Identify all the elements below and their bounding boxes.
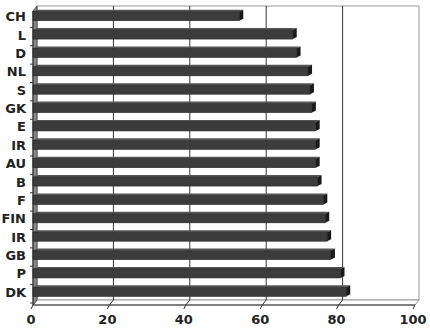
x-tick-label: 20 [98,312,116,327]
bar [33,46,301,57]
y-tick-label: IR [11,230,26,245]
bar-chart: CHLDNLSGKEIRAUBFFINIRGBPDK 020406080100 [0,0,430,330]
y-axis-labels: CHLDNLSGKEIRAUBFFINIRGBPDK [1,9,27,300]
y-tick-label: B [16,175,26,190]
bar [33,157,320,168]
x-tick-label: 40 [175,312,193,327]
y-tick-label: AU [6,156,26,171]
bar [33,193,327,204]
x-tick-label: 80 [328,312,346,327]
bar [33,65,312,76]
bar [33,10,243,21]
bar [33,175,322,186]
x-tick-label: 60 [251,312,269,327]
y-tick-label: D [15,46,26,61]
bar [33,28,297,39]
y-tick-label: DK [5,285,27,300]
bar [33,212,329,223]
bar [33,138,320,149]
y-tick-label: L [18,28,26,43]
bar [33,120,320,131]
bar [33,102,316,113]
floor [33,300,419,305]
y-tick-label: E [17,119,26,134]
y-tick-label: GK [5,101,27,116]
y-tick-label: NL [7,64,26,79]
bar [33,249,335,260]
x-axis-labels: 020406080100 [26,312,426,327]
y-tick-label: S [17,83,26,98]
y-tick-label: CH [6,9,26,24]
y-tick-label: F [17,193,26,208]
y-tick-label: FIN [1,211,26,226]
bar [33,267,345,278]
bar [33,230,331,241]
x-tick-label: 0 [26,312,35,327]
bar [33,83,314,94]
x-tick-label: 100 [399,312,426,327]
y-tick-label: P [16,266,26,281]
y-tick-label: IR [11,138,26,153]
bar [33,285,350,296]
y-tick-label: GB [5,248,26,263]
